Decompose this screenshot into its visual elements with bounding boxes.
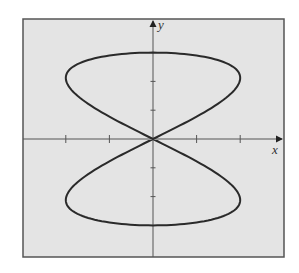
bowtie-curve-plot	[0, 0, 299, 273]
x-axis-label: x	[272, 142, 278, 158]
y-axis-label: y	[158, 17, 164, 33]
